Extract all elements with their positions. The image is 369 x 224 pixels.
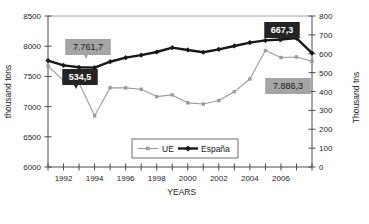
legend-label-espana: España: [201, 144, 230, 154]
x-tick-label: 1996: [117, 174, 135, 183]
callout-ue-first: 534,5: [62, 69, 98, 85]
data-point-espana: [45, 58, 50, 63]
data-point-espana: [263, 38, 268, 43]
y-tick-label-right: 0: [319, 163, 324, 172]
leader-ue-first: [74, 85, 78, 89]
data-point-espana: [139, 53, 144, 58]
data-point-espana: [170, 45, 175, 50]
x-tick-label: 1992: [55, 174, 73, 183]
data-point-espana: [154, 49, 159, 54]
data-point-ue: [233, 90, 236, 93]
callout-espana-last-label: 7.886,3: [273, 81, 303, 91]
y-tick-label-left: 7000: [23, 103, 41, 112]
legend-label-ue: UE: [162, 144, 174, 154]
leader-espana-first: [84, 55, 88, 59]
legend: UEEspaña: [132, 139, 238, 158]
callout-espana-first-label: 7.761,7: [73, 42, 103, 52]
line-chart: 6000650070007500800085000100200300400500…: [0, 0, 369, 224]
x-tick-label: 1994: [86, 174, 104, 183]
y-axis-title-right: Thousand tns: [351, 72, 361, 124]
data-point-ue: [264, 49, 267, 52]
x-tick-label: 2004: [241, 174, 259, 183]
x-tick-label: 2000: [179, 174, 197, 183]
y-tick-label-left: 8000: [23, 42, 41, 51]
y-tick-label-right: 400: [319, 88, 333, 97]
data-point-ue: [124, 86, 127, 89]
data-point-ue: [202, 102, 205, 105]
data-point-espana: [216, 47, 221, 52]
data-point-espana: [185, 47, 190, 52]
callout-espana-first: 7.761,7: [65, 39, 111, 55]
callout-ue-last-label: 667,3: [271, 25, 294, 35]
data-point-ue: [93, 114, 96, 117]
data-point-ue: [46, 64, 49, 67]
y-axis-title-left: thousand tons: [3, 65, 13, 118]
y-tick-label-right: 100: [319, 144, 333, 153]
data-point-ue: [186, 101, 189, 104]
data-point-ue: [279, 56, 282, 59]
data-point-espana: [123, 55, 128, 60]
y-tick-label-right: 700: [319, 31, 333, 40]
data-point-ue: [108, 86, 111, 89]
callout-espana-last: 7.886,3: [265, 78, 311, 94]
y-tick-label-left: 6500: [23, 133, 41, 142]
x-tick-label: 2002: [210, 174, 228, 183]
data-point-ue: [248, 77, 251, 80]
x-tick-label: 2006: [272, 174, 290, 183]
y-tick-label-right: 500: [319, 69, 333, 78]
x-tick-label: 1998: [148, 174, 166, 183]
y-tick-label-left: 8500: [23, 12, 41, 21]
data-point-ue: [155, 95, 158, 98]
data-point-ue: [171, 93, 174, 96]
data-point-espana: [247, 40, 252, 45]
y-tick-label-right: 600: [319, 50, 333, 59]
data-point-ue: [310, 60, 313, 63]
y-tick-label-left: 7500: [23, 72, 41, 81]
callout-ue-first-label: 534,5: [69, 72, 92, 82]
data-point-ue: [295, 55, 298, 58]
y-tick-label-right: 200: [319, 125, 333, 134]
legend-marker-ue: [146, 147, 150, 151]
chart-container: 6000650070007500800085000100200300400500…: [0, 0, 369, 224]
data-point-espana: [232, 43, 237, 48]
data-point-ue: [217, 99, 220, 102]
callout-ue-last: 667,3: [264, 22, 300, 38]
data-point-espana: [61, 63, 66, 68]
x-axis-title: YEARS: [167, 187, 196, 197]
y-tick-label-right: 800: [319, 12, 333, 21]
y-tick-label-right: 300: [319, 106, 333, 115]
data-point-ue: [139, 88, 142, 91]
y-tick-label-left: 6000: [23, 163, 41, 172]
data-point-espana: [201, 50, 206, 55]
